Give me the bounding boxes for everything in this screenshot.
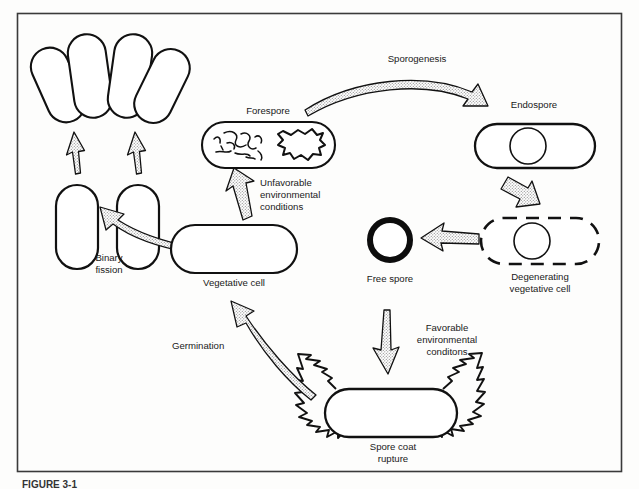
label-sporogenesis: Sporogenesis	[388, 53, 447, 64]
forespore-blob	[278, 129, 325, 160]
label-favorable-line3: conditons	[426, 346, 467, 357]
figure-caption: FIGURE 3-1	[22, 478, 582, 489]
arrow-division-right	[128, 132, 146, 174]
vegetative-cell-body	[171, 225, 297, 273]
arrow-spore-release	[421, 223, 479, 251]
free-spore	[370, 220, 410, 260]
label-spore-coat-line2: rupture	[378, 453, 408, 464]
label-degenerating-line1: Degenerating	[511, 271, 569, 282]
label-degenerating-line2: vegetative cell	[510, 283, 571, 294]
label-binary-fission-line2: fission	[95, 264, 122, 275]
label-favorable-line1: Favorable	[426, 322, 469, 333]
vegetative-cell	[171, 225, 297, 273]
label-free-spore: Free spore	[367, 273, 413, 284]
degenerating-inner-circle	[514, 223, 550, 259]
label-endospore: Endospore	[511, 99, 557, 110]
degenerating-cell	[481, 218, 599, 264]
dividing-capsule-left	[56, 185, 98, 269]
arrow-favorable	[373, 310, 399, 374]
endospore-inner-circle	[510, 128, 546, 164]
arrow-unfavorable	[226, 168, 254, 220]
figure-root: Binary fission Vegetative cell Unfavorab…	[0, 0, 639, 489]
endospore-cell	[475, 124, 595, 168]
label-forespore: Forespore	[246, 105, 290, 116]
arrow-sporogenesis	[305, 80, 488, 116]
label-binary-fission-line1: Binary	[95, 252, 122, 263]
label-vegetative-cell: Vegetative cell	[203, 277, 265, 288]
label-unfavorable-line1: Unfavorable	[260, 177, 312, 188]
label-unfavorable-line2: environmental	[260, 189, 320, 200]
free-spore-ring	[370, 220, 410, 260]
figure-caption-text: FIGURE 3-1	[22, 479, 77, 489]
label-germination: Germination	[172, 340, 224, 351]
arrow-germination	[231, 301, 316, 400]
endospore-cycle-diagram: Binary fission Vegetative cell Unfavorab…	[0, 0, 639, 489]
label-favorable-line2: environmental	[417, 334, 477, 345]
arrow-division-left	[67, 132, 85, 174]
spore-coat-rupture-body	[325, 389, 457, 437]
daughter-cells-top	[25, 32, 196, 130]
label-unfavorable-line3: conditions	[260, 201, 303, 212]
label-spore-coat-line1: Spore coat	[370, 441, 417, 452]
forespore-cell	[202, 122, 335, 168]
arrow-endospore-release	[501, 177, 540, 207]
